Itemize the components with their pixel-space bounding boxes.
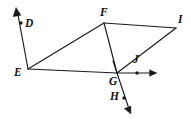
segment-E-F [28,23,104,69]
vertex-label-H: H [110,91,119,103]
vertex-label-E: E [14,67,22,79]
point-H-marker [122,96,125,99]
vertex-label-F: F [100,7,108,19]
vertex-label-D: D [25,18,33,30]
segment-G-I [117,28,176,73]
vertex-label-I: I [178,14,182,26]
ray-G-J-arrowhead [150,70,158,77]
segment-E-G [28,69,117,73]
vertex-label-G: G [109,76,117,88]
vertex-label-J: J [133,54,139,66]
point-J-marker [135,71,138,74]
geometry-figure: D E F G H I J [0,0,191,119]
ray-G-H-arrowhead [124,106,131,114]
segment-F-I [104,23,176,28]
point-D-marker [19,21,22,24]
ray-E-D-arrowhead [13,8,21,17]
